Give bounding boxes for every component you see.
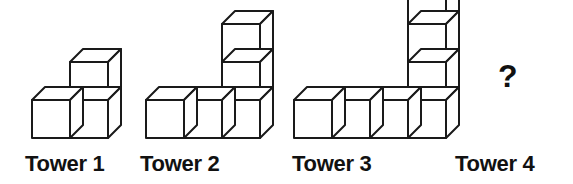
tower-3-cube-group: [294, 0, 459, 138]
tower-4-label: Tower 4: [455, 152, 534, 176]
cube-base-6: [294, 87, 345, 138]
tower-3-label: Tower 3: [292, 152, 371, 176]
unknown-tower-question-mark: ?: [498, 60, 518, 92]
tower-1-label: Tower 1: [25, 152, 104, 176]
cube-front-face: [294, 100, 332, 138]
tower-2-label: Tower 2: [140, 152, 219, 176]
puzzle-canvas: ? Tower 1 Tower 2 Tower 3 Tower 4: [0, 0, 573, 184]
